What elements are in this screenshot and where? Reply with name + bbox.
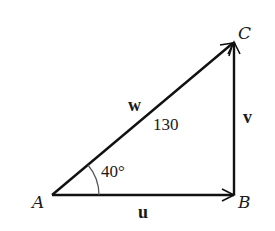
vector-w-line	[52, 43, 233, 195]
vertex-label-a: A	[32, 194, 44, 211]
angle-arc-icon	[88, 165, 99, 195]
vector-label-u: u	[138, 203, 148, 221]
vector-w-magnitude: 130	[153, 116, 179, 133]
angle-label: 40°	[101, 163, 125, 180]
vertex-label-c: C	[238, 25, 251, 42]
vector-label-w: w	[128, 96, 141, 114]
vector-triangle-diagram: A B C w 130 v u 40°	[0, 0, 275, 231]
vertex-label-b: B	[238, 194, 251, 211]
vector-label-v: v	[243, 108, 252, 126]
